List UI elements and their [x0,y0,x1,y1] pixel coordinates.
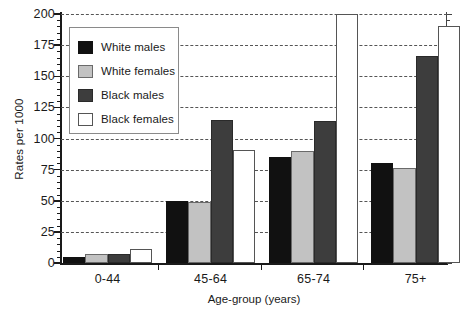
x-axis-label-45-64: 45-64 [171,272,251,286]
y-tick-label: 75 [0,164,55,177]
y-tick-minor [57,226,61,227]
y-tick-minor [57,114,61,115]
bar-black-males-75- [416,56,438,263]
y-tick-major [54,262,61,264]
y-tick-major [54,13,61,15]
y-tick-minor [57,163,61,164]
y-tick-major [54,138,61,140]
y-tick-label: 150 [0,70,55,83]
legend-label: White males [101,41,165,53]
y-tick-minor [57,70,61,71]
y-tick-minor [57,26,61,27]
y-tick-minor [57,120,61,121]
y-tick-minor [57,20,61,21]
chart-legend: White malesWhite femalesBlack malesBlack… [69,27,179,134]
legend-swatch-white-females [78,65,93,78]
bar-black-males-65-74 [314,121,336,263]
y-tick-minor [57,82,61,83]
y-tick-minor [57,182,61,183]
y-tick-minor [57,132,61,133]
gridline [61,139,447,140]
y-tick-minor [57,58,61,59]
bar-chart-figure: Rates per 1000 Age-group (years) 0255075… [0,0,465,314]
y-tick-minor [57,95,61,96]
bar-black-males-45-64 [211,120,233,263]
bar-white-females-75- [393,168,415,263]
bar-black-females-0-44 [130,249,152,263]
y-tick-minor [57,238,61,239]
y-tick-minor [57,251,61,252]
y-tick-major [54,76,61,78]
bar-white-males-45-64 [166,201,188,263]
x-axis-title: Age-group (years) [61,293,447,305]
y-tick-minor [57,244,61,245]
legend-swatch-black-females [78,113,93,126]
bar-white-males-75- [371,163,393,263]
gridline [61,14,447,15]
y-tick-label: 200 [0,8,55,21]
y-tick-minor [57,145,61,146]
y-tick-right [447,263,452,264]
x-axis-label-75-: 75+ [376,272,456,286]
y-tick-major [54,231,61,233]
y-tick-minor [57,188,61,189]
y-tick-minor [57,89,61,90]
y-tick-minor [57,176,61,177]
y-tick-minor [57,64,61,65]
y-tick-minor [57,219,61,220]
y-tick-label: 125 [0,101,55,114]
y-tick-minor [57,207,61,208]
x-axis-line [60,263,448,265]
legend-label: White females [101,65,175,77]
y-tick-major [54,44,61,46]
x-axis-label-0-44: 0-44 [68,272,148,286]
y-tick-major [54,169,61,171]
y-tick-minor [57,195,61,196]
y-tick-minor-right [447,20,450,21]
y-tick-minor [57,126,61,127]
group-separator-tick [261,263,262,270]
group-separator-tick [158,263,159,270]
y-tick-right [447,14,452,15]
y-tick-label: 100 [0,133,55,146]
y-tick-minor [57,151,61,152]
legend-swatch-white-males [78,41,93,54]
y-tick-minor [57,257,61,258]
bar-black-males-0-44 [108,254,130,263]
bar-white-females-0-44 [85,254,107,263]
y-tick-minor [57,101,61,102]
legend-item-white-males: White males [78,35,178,59]
y-tick-label: 25 [0,226,55,239]
legend-label: Black males [101,89,164,101]
group-separator-tick [363,263,364,270]
y-tick-major [54,107,61,109]
y-tick-label: 175 [0,39,55,52]
legend-swatch-black-males [78,89,93,102]
y-tick-minor [57,51,61,52]
bar-white-females-65-74 [291,151,313,263]
y-tick-minor [57,39,61,40]
legend-item-white-females: White females [78,59,178,83]
bar-white-males-0-44 [63,257,85,263]
bar-white-males-65-74 [269,157,291,263]
bar-white-females-45-64 [188,202,210,263]
y-tick-minor [57,157,61,158]
bar-black-females-75- [438,26,460,263]
y-tick-label: 50 [0,195,55,208]
legend-item-black-males: Black males [78,83,178,107]
bar-black-females-45-64 [233,150,255,263]
x-axis-label-65-74: 65-74 [274,272,354,286]
y-tick-major [54,200,61,202]
legend-label: Black females [101,113,174,125]
y-tick-minor [57,33,61,34]
legend-item-black-females: Black females [78,107,178,131]
bar-black-females-65-74 [336,14,358,263]
y-tick-minor [57,213,61,214]
y-tick-label: 0 [0,257,55,270]
